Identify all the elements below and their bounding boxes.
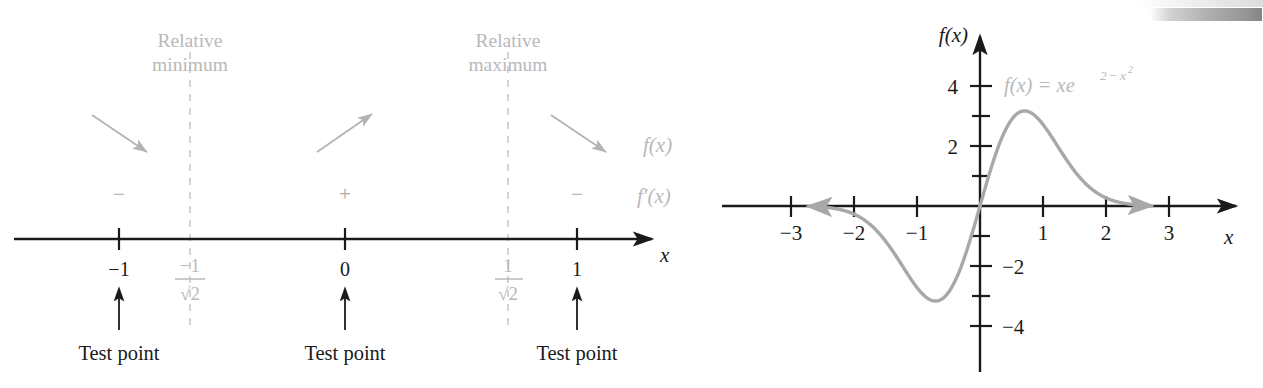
test-point-caption-3: Test point [536,342,617,365]
graph-ylabel-2: 2 [948,135,959,159]
behavior-arrow-decreasing-right [551,115,606,152]
number-line-axis-label: x [659,243,670,267]
sign-interval-3: − [571,182,583,206]
graph-xlabel--3: −3 [780,221,802,245]
graph-xlabel-2: 2 [1101,221,1112,245]
row-label-f-prime: f′(x) [637,184,671,208]
graph-xlabel--2: −2 [843,221,865,245]
fraction-numerator-max: 1 [503,255,513,276]
row-label-f: f(x) [643,133,672,157]
graph-ylabel-4: 4 [948,75,959,99]
graph-equation-exp-base: 2 [1100,68,1107,83]
sign-chart-panel: Relative minimum Relative maximum f(x) −… [0,0,700,388]
textbook-figure: Relative minimum Relative maximum f(x) −… [0,0,1263,388]
sign-interval-2: + [339,182,351,206]
graph-equation-annotation: f(x) = xe 2 − x 2 [1004,64,1133,97]
graph-curve-left-branch [809,206,980,301]
fraction-denominator-max: √2 [498,283,518,304]
graph-ylabel--2: −2 [1002,255,1024,279]
fraction-numerator-min: −1 [180,255,200,276]
graph-xlabel--1: −1 [906,221,928,245]
behavior-arrow-decreasing-left [92,115,147,152]
graph-y-axis-label: f(x) [939,23,968,47]
graph-x-axis-label: x [1223,225,1234,249]
tick-label-zero: 0 [340,258,350,280]
fraction-denominator-min: √2 [180,283,200,304]
graph-xlabel-3: 3 [1164,221,1175,245]
tick-label-minus-1: −1 [108,258,129,280]
graph-equation-exp-var: x [1119,68,1126,83]
function-graph-panel: −3 −2 −1 1 2 3 4 2 −2 −4 f(x) x f(x) = x… [700,0,1263,388]
graph-ylabel--4: −4 [1002,315,1025,339]
sign-interval-1: − [113,182,125,206]
graph-equation-exp-pow: 2 [1128,64,1133,75]
test-point-caption-2: Test point [304,342,385,365]
relative-minimum-label-line2: minimum [152,54,228,75]
relative-minimum-label-line1: Relative [158,30,223,51]
relative-maximum-label-line2: maximum [468,54,547,75]
tick-label-one-over-sqrt2: 1 √2 [495,255,523,304]
relative-maximum-label-line1: Relative [476,30,541,51]
tick-label-minus-one-over-sqrt2: −1 √2 [175,255,205,304]
graph-equation-exp-minus: − [1109,68,1117,83]
graph-xlabel-1: 1 [1038,221,1049,245]
tick-label-one: 1 [572,258,582,280]
test-point-caption-1: Test point [78,342,159,365]
behavior-arrow-increasing-middle [317,114,372,152]
